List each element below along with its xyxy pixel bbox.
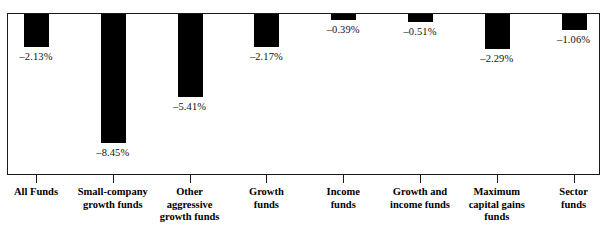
bar[interactable] [101, 14, 126, 143]
bar-value-label: –5.41% [173, 101, 206, 112]
bar[interactable] [331, 14, 356, 20]
bar-value-label: –0.51% [404, 26, 437, 37]
bar-value-label: –2.29% [480, 53, 513, 64]
x-axis-tick [190, 175, 191, 183]
x-axis-tick [113, 175, 114, 183]
x-axis-tick [36, 175, 37, 183]
bar[interactable] [254, 14, 279, 47]
bar-chart-figure: –2.13%–8.45%–5.41%–2.17%–0.39%–0.51%–2.2… [0, 0, 608, 236]
x-axis-category-labels: All FundsSmall-companygrowth fundsOthera… [7, 186, 600, 236]
category-label-line: funds [445, 211, 549, 224]
bar-value-label: –1.06% [557, 34, 590, 45]
x-axis-tick [266, 175, 267, 183]
bar[interactable] [562, 14, 587, 30]
x-axis-ticks [7, 175, 600, 183]
bar[interactable] [24, 14, 49, 47]
x-axis-tick [343, 175, 344, 183]
category-label-line: growth funds [138, 211, 242, 224]
bar-value-label: –2.17% [250, 51, 283, 62]
bar-value-label: –0.39% [327, 24, 360, 35]
x-axis-tick [420, 175, 421, 183]
bar-value-label: –8.45% [96, 147, 129, 158]
bar[interactable] [178, 14, 203, 97]
x-axis-category-label: Sectorfunds [522, 186, 608, 211]
category-label-line: funds [522, 199, 608, 212]
bar[interactable] [408, 14, 433, 22]
bar[interactable] [485, 14, 510, 49]
bar-value-label: –2.13% [20, 51, 53, 62]
x-axis-tick [574, 175, 575, 183]
bars-layer: –2.13%–8.45%–5.41%–2.17%–0.39%–0.51%–2.2… [7, 14, 600, 175]
category-label-line: Sector [522, 186, 608, 199]
x-axis-tick [497, 175, 498, 183]
